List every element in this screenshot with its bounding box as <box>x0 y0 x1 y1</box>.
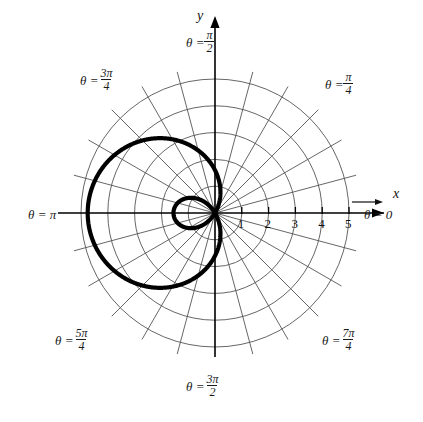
theta-7pi-over-4-den: 4 <box>343 339 353 352</box>
theta-pi-text: θ = π <box>28 208 56 221</box>
theta-3pi-over-2-num: 3π <box>204 373 220 385</box>
theta-3pi-over-2-label: θ =3π2 <box>186 374 220 399</box>
theta-pi-over-4-den: 4 <box>343 83 353 96</box>
theta-zero-direction-arrow <box>352 199 383 205</box>
y-axis-label: y <box>197 8 203 24</box>
polar-grid-spoke-30 <box>215 140 341 213</box>
y-axis-arrow-icon <box>210 16 219 28</box>
polar-grid-spoke-60 <box>215 87 288 213</box>
x-tick-label-3: 3 <box>291 216 298 232</box>
theta-pi-over-4-lhs: θ = <box>325 78 343 91</box>
theta-pi-over-2-den: 2 <box>204 41 214 54</box>
theta-pi-label: θ = π <box>28 206 56 221</box>
theta-pi-over-2-num: π <box>204 29 214 41</box>
x-axis-label: x <box>393 186 399 202</box>
theta-3pi-over-4-label: θ =3π4 <box>80 68 114 93</box>
theta-5pi-over-4-lhs: θ = <box>55 334 73 347</box>
theta-3pi-over-2-den: 2 <box>207 385 217 398</box>
theta-pi-over-2-lhs: θ = <box>186 36 204 49</box>
theta-7pi-over-4-lhs: θ = <box>322 334 340 347</box>
x-tick-label-2: 2 <box>265 216 272 232</box>
theta-pi-over-4-num: π <box>343 71 353 83</box>
theta-pi-over-2-label: θ =π2 <box>186 30 214 55</box>
theta-7pi-over-4-label: θ =7π4 <box>322 328 356 353</box>
theta-3pi-over-4-lhs: θ = <box>80 74 98 87</box>
theta-5pi-over-4-den: 4 <box>76 339 86 352</box>
polar-grid-spoke-120 <box>142 87 215 213</box>
theta-5pi-over-4-num: 5π <box>73 327 89 339</box>
theta-zero-label: θ = 0 <box>364 206 392 221</box>
x-tick-label-5: 5 <box>345 216 352 232</box>
theta-3pi-over-4-den: 4 <box>101 79 111 92</box>
theta-pi-over-4-label: θ =π4 <box>325 72 353 97</box>
theta-zero-text: θ = 0 <box>364 208 392 221</box>
theta-3pi-over-4-num: 3π <box>98 67 114 79</box>
polar-plot-canvas <box>0 0 423 422</box>
theta-3pi-over-2-lhs: θ = <box>186 380 204 393</box>
x-tick-label-4: 4 <box>318 216 325 232</box>
theta-5pi-over-4-label: θ =5π4 <box>55 328 89 353</box>
polar-grid-spoke-300 <box>215 213 288 339</box>
x-tick-label-1: 1 <box>238 216 245 232</box>
polar-plot-figure: y x θ =π2 θ =3π4 θ =π4 θ = π θ = 0 θ =5π… <box>0 0 423 422</box>
polar-grid-spoke-345 <box>215 213 356 251</box>
polar-grid-spoke-240 <box>142 213 215 339</box>
polar-grid-spoke-15 <box>215 175 356 213</box>
theta-7pi-over-4-num: 7π <box>340 327 356 339</box>
